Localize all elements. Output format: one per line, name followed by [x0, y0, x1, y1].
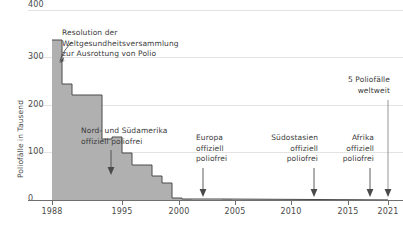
- annotation-africa: Afrika offiziell poliofrei: [322, 133, 374, 165]
- annotation-resolution: Resolution der Weltgesundheitsversammlun…: [62, 28, 202, 60]
- xtick-label-1988: 1988: [32, 207, 72, 216]
- southeast-asia-arrowhead-icon: [311, 189, 318, 197]
- xtick-mark-2005: [235, 200, 236, 205]
- xtick-mark-2015: [348, 200, 349, 205]
- xtick-label-2021: 2021: [368, 207, 403, 216]
- annotation-europe: Europa offiziell poliofrei: [196, 133, 246, 165]
- xtick-label-2015: 2015: [328, 207, 368, 216]
- xtick-label-1995: 1995: [102, 207, 142, 216]
- africa-arrowhead-icon: [367, 189, 374, 197]
- cases-2021-arrowhead-icon: [385, 189, 392, 197]
- xtick-label-2005: 2005: [215, 207, 255, 216]
- xtick-mark-1988: [52, 200, 53, 205]
- xtick-mark-2010: [291, 200, 292, 205]
- xtick-label-2000: 2000: [159, 207, 199, 216]
- xtick-label-2010: 2010: [271, 207, 311, 216]
- xtick-mark-2000: [179, 200, 180, 205]
- x-axis-line: [28, 200, 403, 201]
- europe-arrowhead-icon: [200, 189, 207, 197]
- annotation-cases-2021: 5 Poliofälle weltweit: [330, 75, 390, 96]
- polio-cases-chart: 400 300 200 100 0 Poliofälle in Tausend …: [0, 0, 403, 238]
- xtick-mark-1995: [122, 200, 123, 205]
- xtick-mark-2021: [388, 200, 389, 205]
- annotation-southeast-asia: Südostasien offiziell poliofrei: [258, 133, 318, 165]
- annotation-americas: Nord- und Südamerika offiziell poliofrei: [81, 126, 191, 147]
